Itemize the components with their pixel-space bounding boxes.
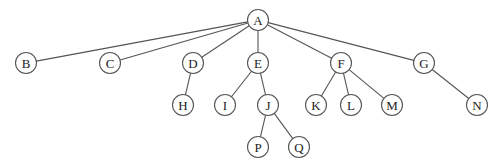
- node-label: Q: [294, 140, 304, 155]
- node-c: C: [100, 53, 121, 74]
- node-i: I: [215, 95, 236, 116]
- node-m: M: [382, 95, 403, 116]
- node-q: Q: [289, 137, 310, 158]
- node-label: J: [265, 98, 270, 113]
- node-d: D: [183, 53, 204, 74]
- node-label: E: [254, 56, 262, 71]
- node-label: N: [472, 98, 482, 113]
- node-n: N: [467, 95, 488, 116]
- node-a: A: [248, 10, 269, 31]
- edge-j-p: [260, 115, 265, 137]
- tree-nodes: ABCDEFGHIJKLMNPQ: [16, 10, 488, 158]
- edge-f-k: [321, 72, 335, 96]
- node-label: H: [178, 98, 187, 113]
- edge-g-n: [432, 70, 469, 99]
- edge-f-m: [349, 70, 384, 99]
- node-h: H: [173, 95, 194, 116]
- edge-e-i: [231, 71, 251, 96]
- edge-d-h: [185, 73, 190, 95]
- node-label: F: [337, 56, 344, 71]
- node-k: K: [306, 95, 327, 116]
- edge-a-b: [36, 22, 247, 61]
- node-label: I: [223, 98, 227, 113]
- edge-a-d: [202, 26, 249, 57]
- edge-e-j: [260, 73, 265, 95]
- edge-a-f: [267, 25, 331, 58]
- node-j: J: [258, 95, 279, 116]
- edge-f-l: [343, 73, 348, 95]
- node-f: F: [331, 53, 352, 74]
- node-l: L: [341, 95, 362, 116]
- node-label: C: [106, 56, 115, 71]
- node-b: B: [16, 53, 37, 74]
- edge-j-q: [274, 113, 293, 138]
- node-e: E: [248, 53, 269, 74]
- node-label: A: [253, 13, 263, 28]
- node-label: K: [311, 98, 321, 113]
- node-g: G: [414, 53, 435, 74]
- tree-diagram: ABCDEFGHIJKLMNPQ: [0, 0, 502, 168]
- node-label: G: [419, 56, 428, 71]
- node-label: M: [386, 98, 398, 113]
- tree-edges: [36, 22, 468, 139]
- node-label: L: [347, 98, 355, 113]
- node-label: B: [22, 56, 31, 71]
- node-p: P: [248, 137, 269, 158]
- node-label: D: [188, 56, 197, 71]
- node-label: P: [254, 140, 261, 155]
